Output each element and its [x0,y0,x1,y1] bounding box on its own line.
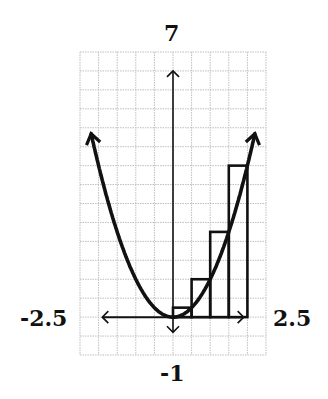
parabola-plot [0,0,328,399]
axes [102,71,243,332]
